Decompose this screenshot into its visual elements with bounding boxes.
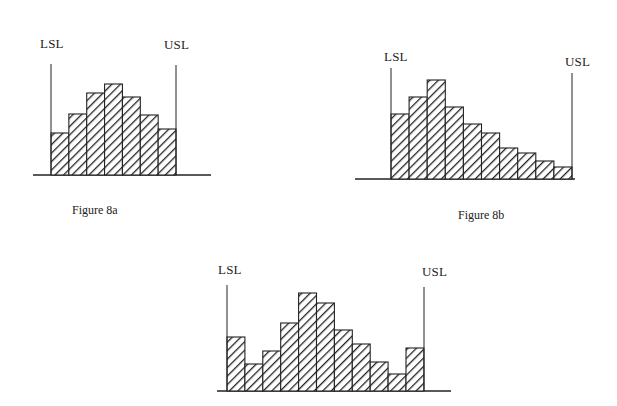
histogram-bar <box>334 330 352 391</box>
lsl-label-8b: LSL <box>384 49 408 65</box>
histogram-figure-8b <box>355 68 575 179</box>
histogram-bar <box>281 323 299 391</box>
histogram-bar <box>227 337 245 391</box>
histogram-bar <box>263 351 281 391</box>
histogram-bar <box>463 124 481 179</box>
histogram-figure-8c <box>217 285 451 391</box>
histogram-bar <box>158 129 176 175</box>
histogram-bar <box>370 362 388 391</box>
histogram-bar <box>317 303 335 391</box>
histogram-bar <box>245 364 263 391</box>
histogram-bar <box>482 133 500 179</box>
histogram-bar <box>518 153 536 179</box>
histogram-figure-8a <box>33 64 211 175</box>
usl-label-8a: USL <box>164 37 189 53</box>
usl-label-8b: USL <box>565 54 590 70</box>
histogram-bar <box>500 148 518 179</box>
histogram-bar <box>105 84 123 175</box>
histogram-bar <box>406 348 424 391</box>
histogram-bar <box>69 114 87 175</box>
figure-8a-caption: Figure 8a <box>72 203 118 218</box>
histogram-bar <box>388 374 406 391</box>
histogram-bar <box>352 344 370 391</box>
figure-8b-caption: Figure 8b <box>458 208 504 223</box>
lsl-label-8c: LSL <box>218 262 242 278</box>
usl-label-8c: USL <box>422 264 447 280</box>
histogram-bar <box>391 114 409 179</box>
histogram-bar <box>122 97 140 175</box>
histogram-bar <box>536 161 554 179</box>
lsl-label-8a: LSL <box>40 36 64 52</box>
histogram-bar <box>427 80 445 179</box>
histogram-bar <box>140 115 158 175</box>
histogram-bar <box>409 97 427 179</box>
histogram-bar <box>299 293 317 391</box>
histogram-bar <box>51 133 69 175</box>
histogram-bar <box>87 93 105 175</box>
histogram-bar <box>445 107 463 179</box>
histogram-bar <box>554 167 572 179</box>
